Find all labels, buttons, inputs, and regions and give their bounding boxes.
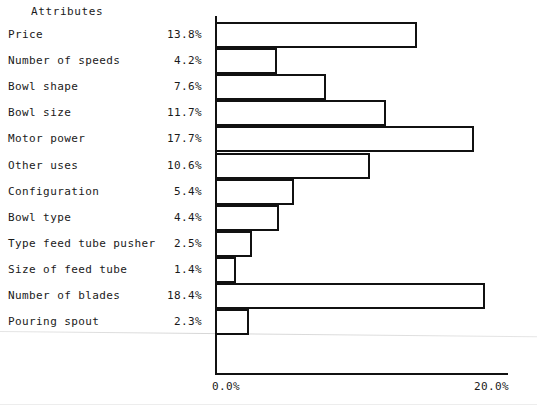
category-label: Other uses bbox=[8, 159, 78, 172]
value-label: 11.7% bbox=[112, 106, 202, 119]
bar-other-uses bbox=[215, 153, 370, 179]
bar-configuration bbox=[215, 179, 294, 205]
bar-type-feed-tube-pusher bbox=[215, 231, 252, 257]
value-label: 2.3% bbox=[112, 315, 202, 328]
bar-motor-power bbox=[215, 126, 474, 152]
value-label: 10.6% bbox=[112, 159, 202, 172]
value-label: 4.4% bbox=[112, 211, 202, 224]
category-label: Number of speeds bbox=[8, 54, 120, 67]
y-axis-line bbox=[215, 16, 217, 375]
attributes-column-header: Attributes bbox=[31, 5, 103, 18]
value-label: 5.4% bbox=[112, 185, 202, 198]
bar-number-of-speeds bbox=[215, 48, 277, 74]
bar-bowl-type bbox=[215, 205, 279, 231]
x-axis-line bbox=[215, 373, 508, 375]
category-label: Pouring spout bbox=[8, 315, 99, 328]
value-label: 4.2% bbox=[112, 54, 202, 67]
category-label: Number of blades bbox=[8, 289, 120, 302]
value-label: 1.4% bbox=[112, 263, 202, 276]
scan-artifact-line-bottom bbox=[0, 404, 537, 405]
bar-size-of-feed-tube bbox=[215, 257, 236, 283]
value-label: 18.4% bbox=[112, 289, 202, 302]
category-label: Motor power bbox=[8, 132, 85, 145]
category-label: Bowl size bbox=[8, 106, 71, 119]
bar-bowl-shape bbox=[215, 74, 326, 100]
horizontal-bar-chart: Attributes PriceNumber of speedsBowl sha… bbox=[0, 0, 537, 409]
bar-bowl-size bbox=[215, 100, 386, 126]
x-axis-tick-min: 0.0% bbox=[212, 380, 240, 393]
bar-number-of-blades bbox=[215, 283, 485, 309]
category-label: Configuration bbox=[8, 185, 99, 198]
category-label: Bowl type bbox=[8, 211, 71, 224]
category-label: Price bbox=[8, 28, 43, 41]
x-axis-tick-max: 20.0% bbox=[474, 380, 509, 393]
value-label: 17.7% bbox=[112, 132, 202, 145]
bar-price bbox=[215, 22, 417, 48]
value-label: 13.8% bbox=[112, 28, 202, 41]
category-label: Bowl shape bbox=[8, 80, 78, 93]
value-label: 7.6% bbox=[112, 80, 202, 93]
value-label: 2.5% bbox=[112, 237, 202, 250]
category-label: Size of feed tube bbox=[8, 263, 127, 276]
scan-artifact-line bbox=[0, 331, 537, 337]
bar-pouring-spout bbox=[215, 309, 249, 335]
